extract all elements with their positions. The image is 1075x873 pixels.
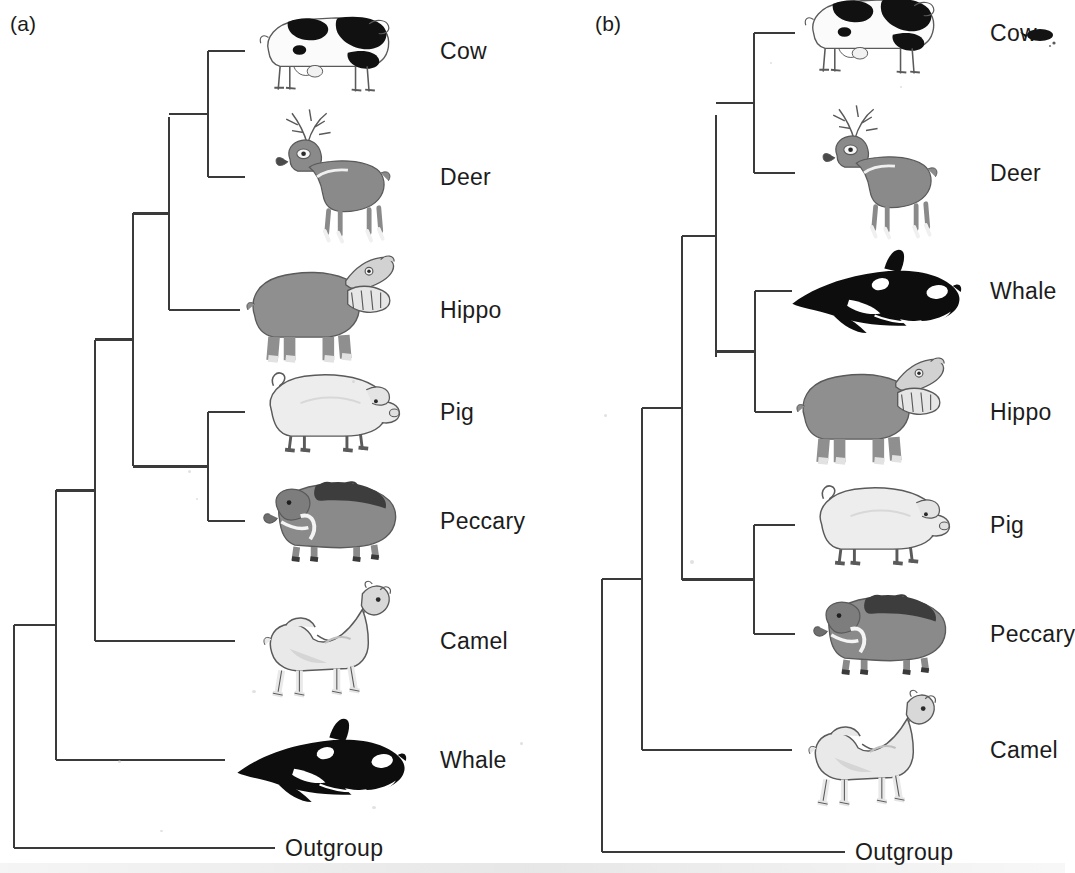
tip-label-camel: Camel (990, 737, 1058, 764)
page-speck (188, 470, 191, 473)
page-speck (160, 830, 163, 832)
camel-icon (800, 683, 940, 817)
pig-icon (808, 477, 953, 569)
pig-icon (258, 364, 403, 460)
page-speck (770, 62, 772, 64)
tip-label-outgroup: Outgroup (855, 839, 953, 866)
pig-icon (258, 364, 403, 456)
whale-icon (235, 712, 410, 804)
peccary-icon (262, 473, 402, 569)
page-speck (352, 380, 355, 383)
tip-label-whale: Whale (440, 747, 507, 774)
page-speck (604, 414, 607, 417)
hippo-icon (245, 246, 400, 371)
deer-icon (265, 105, 400, 249)
tip-label-whale: Whale (990, 278, 1057, 305)
tip-label-hippo: Hippo (990, 399, 1052, 426)
tip-label-camel: Camel (440, 628, 508, 655)
panel-a: (a) CowDeerHippoPigPeccaryCamelWhaleOutg… (0, 0, 533, 873)
tip-label-hippo: Hippo (440, 297, 502, 324)
cow-icon (255, 0, 400, 108)
tip-label-cow: Cow (440, 38, 487, 65)
page-bottom-smudge (0, 863, 1065, 873)
hippo-icon (795, 348, 950, 473)
page-speck (196, 498, 198, 500)
deer-icon (812, 101, 947, 245)
hippo-icon (795, 348, 950, 477)
camel-icon (255, 574, 395, 704)
cow-icon (800, 0, 945, 86)
peccary-icon (812, 586, 952, 678)
page-speck (690, 560, 694, 564)
deer-icon (812, 101, 947, 241)
pig-icon (808, 477, 953, 573)
peccary-icon (262, 473, 402, 565)
page-speck (372, 806, 376, 809)
tip-label-deer: Deer (990, 160, 1041, 187)
camel-icon (255, 574, 395, 708)
page-speck (900, 86, 902, 88)
panel-b: (b) CowDeerWhaleHippoPigPeccaryCamelOutg… (533, 0, 1065, 873)
whale-icon (790, 243, 965, 339)
peccary-icon (812, 586, 952, 682)
deer-icon (265, 105, 400, 245)
tip-label-outgroup: Outgroup (285, 835, 383, 862)
tip-label-pig: Pig (440, 399, 474, 426)
tip-label-deer: Deer (440, 164, 491, 191)
camel-icon (800, 683, 940, 813)
cow-icon (255, 0, 400, 104)
page-speck (520, 742, 523, 745)
tip-label-peccary: Peccary (990, 621, 1075, 648)
page-speck (118, 760, 121, 763)
whale-icon (235, 712, 410, 808)
page-speck (252, 690, 256, 693)
tip-label-pig: Pig (990, 512, 1024, 539)
whale-icon (790, 243, 965, 335)
ink-blot-artifact (1020, 22, 1060, 48)
tip-label-peccary: Peccary (440, 508, 525, 535)
hippo-icon (245, 246, 400, 375)
cow-icon (800, 0, 945, 90)
